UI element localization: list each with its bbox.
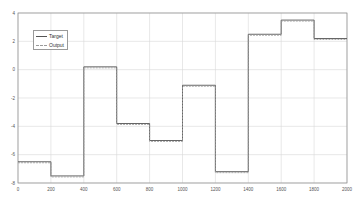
target-line-swatch-icon	[36, 36, 47, 37]
x-tick-label: 600	[113, 187, 121, 192]
x-tick-label: 1600	[276, 187, 287, 192]
x-tick-label: 2000	[342, 187, 353, 192]
x-tick-label: 800	[146, 187, 154, 192]
legend-label-output: Output	[49, 41, 64, 49]
legend-label-target: Target	[49, 32, 63, 40]
y-tick-label: -2	[11, 96, 15, 101]
chart-container: 0200400600800100012001400160018002000420…	[0, 0, 363, 197]
y-tick-label: -6	[11, 152, 15, 157]
x-tick-label: 200	[47, 187, 55, 192]
legend-item-target: Target	[36, 32, 63, 40]
x-tick-label: 1000	[177, 187, 188, 192]
y-tick-label: 2	[12, 39, 15, 44]
y-tick-label: -4	[11, 124, 15, 129]
y-tick-label: 0	[12, 67, 15, 72]
legend-item-output: Output	[36, 41, 64, 49]
output-line-swatch-icon	[36, 45, 47, 46]
y-tick-label: -8	[11, 181, 15, 186]
x-tick-label: 0	[17, 187, 20, 192]
y-tick-label: 4	[12, 11, 15, 16]
x-tick-label: 1200	[210, 187, 221, 192]
legend: Target Output	[33, 30, 68, 50]
x-tick-label: 400	[80, 187, 88, 192]
x-tick-label: 1800	[309, 187, 320, 192]
x-tick-label: 1400	[243, 187, 254, 192]
